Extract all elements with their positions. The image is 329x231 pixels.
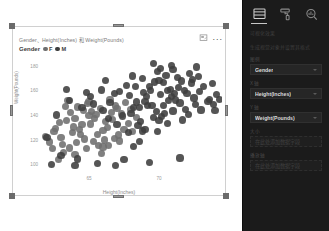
field-well-empty[interactable]: 在此处添加数据字段 — [250, 136, 322, 147]
scatter-point[interactable] — [83, 145, 90, 152]
scatter-point[interactable] — [154, 128, 161, 135]
scatter-point[interactable] — [94, 131, 101, 138]
scatter-point[interactable] — [106, 99, 113, 106]
resize-handle-top-left[interactable] — [9, 23, 15, 29]
scatter-point[interactable] — [87, 93, 94, 100]
field-well[interactable]: Weight(Pounds) — [250, 112, 322, 123]
resize-handle-left[interactable] — [10, 105, 13, 116]
scatter-point[interactable] — [147, 87, 154, 94]
scatter-point[interactable] — [139, 127, 146, 134]
scatter-point[interactable] — [211, 107, 218, 114]
scatter-point[interactable] — [157, 65, 164, 72]
scatter-point[interactable] — [85, 112, 92, 119]
scatter-point[interactable] — [125, 129, 132, 136]
scatter-point[interactable] — [174, 74, 181, 81]
scatter-point[interactable] — [71, 115, 78, 122]
scatter-point[interactable] — [53, 111, 60, 118]
scatter-point[interactable] — [168, 62, 175, 69]
scatter-point[interactable] — [73, 139, 80, 146]
resize-handle-bottom-left[interactable] — [9, 193, 15, 199]
scatter-point[interactable] — [139, 75, 146, 82]
scatter-point[interactable] — [98, 86, 105, 93]
scatter-point[interactable] — [161, 110, 168, 117]
chevron-down-icon[interactable] — [313, 93, 317, 95]
resize-handle-top-right[interactable] — [223, 23, 229, 29]
scatter-point[interactable] — [157, 91, 164, 98]
field-well[interactable]: Gender — [250, 64, 322, 75]
report-canvas[interactable]: ... Gender、Height(Inches) 和 Weight(Pound… — [0, 0, 243, 231]
scatter-point[interactable] — [78, 104, 85, 111]
scatter-point[interactable] — [112, 162, 119, 169]
legend-item-f[interactable]: F — [43, 46, 52, 52]
fields-icon[interactable] — [251, 6, 267, 22]
scatter-point[interactable] — [136, 104, 143, 111]
scatter-point[interactable] — [94, 160, 101, 167]
resize-handle-top[interactable] — [113, 24, 124, 27]
scatter-point[interactable] — [125, 120, 132, 127]
scatter-point[interactable] — [132, 83, 139, 90]
scatter-point[interactable] — [162, 72, 169, 79]
scatter-point[interactable] — [57, 152, 64, 159]
scatter-point[interactable] — [216, 96, 222, 103]
scatter-point[interactable] — [197, 106, 204, 113]
scatter-point[interactable] — [71, 162, 78, 169]
scatter-point[interactable] — [179, 116, 186, 123]
scatter-point[interactable] — [63, 86, 70, 93]
scatter-point[interactable] — [49, 145, 56, 152]
analytics-magnifier-icon[interactable] — [303, 6, 319, 22]
scatter-point[interactable] — [169, 107, 176, 114]
legend-item-m[interactable]: M — [55, 46, 66, 52]
scatter-point[interactable] — [98, 150, 105, 157]
scatter-point[interactable] — [104, 124, 111, 131]
scatter-point[interactable] — [66, 97, 73, 104]
scatter-point[interactable] — [43, 134, 50, 141]
scatter-point[interactable] — [122, 99, 129, 106]
scatter-point[interactable] — [160, 79, 167, 86]
scatter-point[interactable] — [115, 131, 122, 138]
scatter-point[interactable] — [113, 121, 120, 128]
pane-sections[interactable]: 可视化效果生成视觉对象并设置其格式图例GenderX 轴Height(Inche… — [243, 24, 329, 174]
scatter-point[interactable] — [99, 143, 106, 150]
scatter-point[interactable] — [123, 82, 130, 89]
scatter-chart-visual[interactable]: ... Gender、Height(Inches) 和 Weight(Pound… — [12, 26, 226, 196]
scatter-point[interactable] — [165, 97, 172, 104]
scatter-point[interactable] — [193, 63, 200, 70]
visualizations-pane[interactable]: 可视化效果生成视觉对象并设置其格式图例GenderX 轴Height(Inche… — [242, 0, 329, 231]
scatter-point[interactable] — [150, 60, 157, 67]
scatter-points-layer[interactable] — [40, 56, 222, 174]
scatter-point[interactable] — [209, 80, 216, 87]
scatter-point[interactable] — [151, 78, 158, 85]
scatter-point[interactable] — [90, 100, 97, 107]
chart-legend[interactable]: Gender F M — [19, 46, 66, 52]
scatter-point[interactable] — [185, 111, 192, 118]
field-well-empty[interactable]: 在此处添加数据字段 — [250, 160, 322, 171]
scatter-point[interactable] — [69, 129, 76, 136]
pane-tab-strip[interactable] — [243, 0, 329, 24]
scatter-point[interactable] — [155, 117, 162, 124]
scatter-point[interactable] — [63, 117, 70, 124]
scatter-point[interactable] — [164, 120, 171, 127]
scatter-point[interactable] — [129, 72, 136, 79]
scatter-point[interactable] — [120, 156, 127, 163]
scatter-point[interactable] — [176, 154, 183, 161]
scatter-point[interactable] — [146, 159, 153, 166]
resize-handle-right[interactable] — [225, 105, 228, 116]
resize-handle-bottom[interactable] — [113, 195, 124, 198]
scatter-point[interactable] — [119, 112, 126, 119]
scatter-point[interactable] — [81, 135, 88, 142]
scatter-point[interactable] — [99, 107, 106, 114]
field-well[interactable]: Height(Inches) — [250, 88, 322, 99]
scatter-point[interactable] — [102, 77, 109, 84]
scatter-point[interactable] — [52, 125, 59, 132]
scatter-point[interactable] — [59, 141, 66, 148]
scatter-point[interactable] — [48, 161, 55, 168]
scatter-point[interactable] — [111, 90, 118, 97]
more-options-icon[interactable]: ... — [212, 33, 223, 41]
scatter-point[interactable] — [126, 92, 133, 99]
scatter-point[interactable] — [78, 121, 85, 128]
scatter-point[interactable] — [136, 138, 143, 145]
scatter-point[interactable] — [189, 76, 196, 83]
scatter-point[interactable] — [105, 115, 112, 122]
scatter-point[interactable] — [101, 136, 108, 143]
chevron-down-icon[interactable] — [313, 117, 317, 119]
